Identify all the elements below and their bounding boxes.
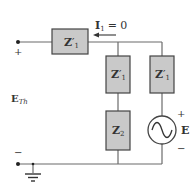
source-minus: − [177,143,185,154]
junction-dot [32,163,35,166]
current-label: I1= 0 [95,19,127,33]
source-label: E [181,124,189,137]
impedance-z1-series: Z′1 [52,29,88,54]
terminal-top-dot [16,40,20,44]
terminal-plus: + [14,46,22,57]
impedance-z1-mid: Z′1 [106,56,130,93]
terminal-minus: − [14,147,22,158]
current-arrow-icon [93,33,116,38]
wires [18,42,162,173]
terminal-bottom-dot [16,162,20,166]
eth-label: ETh [11,93,28,106]
impedance-z2: Z2 [106,111,130,150]
impedance-z1-right: Z′1 [150,56,174,93]
ac-source-icon [148,116,176,144]
source-plus: + [177,108,185,119]
circuit-diagram: Z′1 Z′1 Z′1 Z2 + E − I1= 0 + − ETh [0,0,196,196]
circuit-svg: Z′1 Z′1 Z′1 Z2 + E − I1= 0 + − ETh [0,0,196,196]
ground-icon [25,174,41,181]
